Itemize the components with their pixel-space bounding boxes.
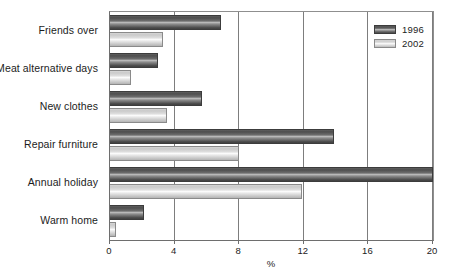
legend-swatch-icon bbox=[374, 25, 396, 34]
bar-1996[interactable] bbox=[110, 91, 202, 106]
category-label: Repair furniture bbox=[0, 125, 104, 163]
x-tick-label: 16 bbox=[362, 245, 373, 256]
x-tick bbox=[238, 240, 239, 244]
legend-label: 2002 bbox=[402, 38, 424, 49]
x-tick-label: 0 bbox=[106, 245, 111, 256]
category-axis: Friends over Meat alternative days New c… bbox=[0, 11, 104, 239]
x-tick bbox=[367, 240, 368, 244]
legend-label: 1996 bbox=[402, 24, 424, 35]
category-label: Friends over bbox=[0, 11, 104, 49]
bar-2002[interactable] bbox=[110, 184, 302, 199]
category-label: New clothes bbox=[0, 87, 104, 125]
bar-2002[interactable] bbox=[110, 32, 163, 47]
bar-1996[interactable] bbox=[110, 167, 433, 182]
x-tick-label: 20 bbox=[427, 245, 438, 256]
bar-spacer bbox=[110, 220, 433, 222]
bar-2002[interactable] bbox=[110, 146, 239, 161]
bar-2002[interactable] bbox=[110, 70, 131, 85]
bar-group bbox=[110, 50, 433, 88]
x-tick-label: 4 bbox=[171, 245, 176, 256]
legend-item-2002[interactable]: 2002 bbox=[374, 38, 424, 49]
bar-2002[interactable] bbox=[110, 108, 167, 123]
legend-item-1996[interactable]: 1996 bbox=[374, 24, 424, 35]
bar-group bbox=[110, 126, 433, 164]
bar-1996[interactable] bbox=[110, 15, 221, 30]
category-label: Meat alternative days bbox=[0, 49, 104, 87]
bar-chart: Friends over Meat alternative days New c… bbox=[0, 0, 454, 272]
bar-group bbox=[110, 202, 433, 240]
x-tick-label: 8 bbox=[236, 245, 241, 256]
x-axis-title: % bbox=[267, 258, 275, 269]
bar-group bbox=[110, 88, 433, 126]
bar-2002[interactable] bbox=[110, 222, 116, 237]
x-tick-label: 12 bbox=[298, 245, 309, 256]
category-label: Annual holiday bbox=[0, 163, 104, 201]
bar-1996[interactable] bbox=[110, 53, 158, 68]
legend-swatch-icon bbox=[374, 39, 396, 48]
bar-spacer bbox=[110, 68, 433, 70]
x-tick bbox=[174, 240, 175, 244]
x-axis: % 048121620 bbox=[109, 240, 433, 272]
bar-group bbox=[110, 164, 433, 202]
legend: 1996 2002 bbox=[372, 22, 426, 51]
x-tick bbox=[109, 240, 110, 244]
category-label: Warm home bbox=[0, 201, 104, 239]
bar-1996[interactable] bbox=[110, 129, 334, 144]
x-tick bbox=[432, 240, 433, 244]
x-tick bbox=[303, 240, 304, 244]
bar-1996[interactable] bbox=[110, 205, 144, 220]
